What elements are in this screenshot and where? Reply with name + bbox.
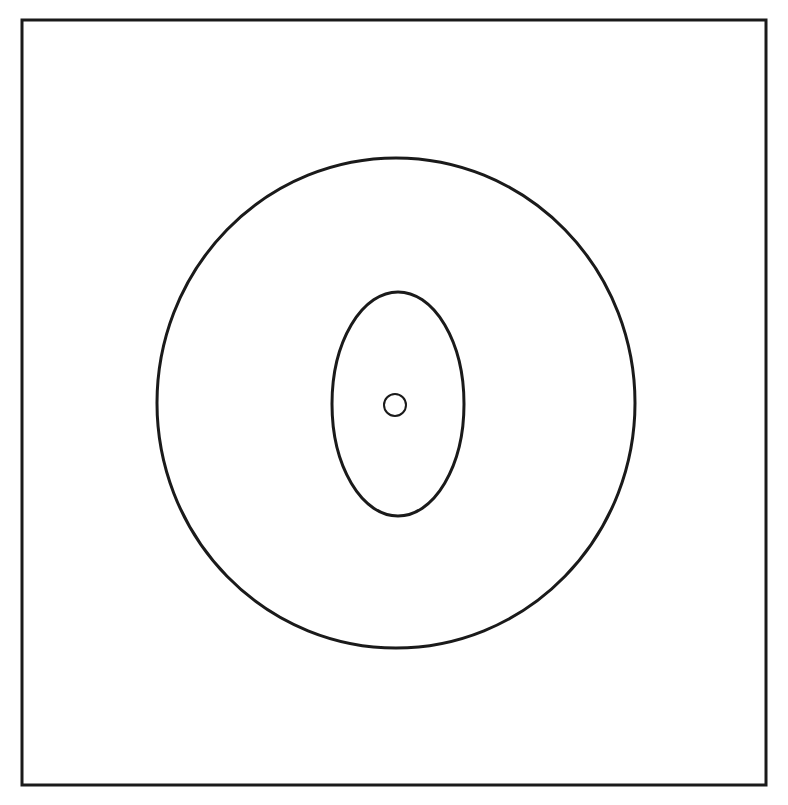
concentric-shapes-diagram xyxy=(0,0,788,805)
frame-border xyxy=(22,20,766,785)
middle-ellipse xyxy=(332,292,464,516)
inner-circle xyxy=(384,394,406,416)
outer-circle xyxy=(157,158,635,648)
